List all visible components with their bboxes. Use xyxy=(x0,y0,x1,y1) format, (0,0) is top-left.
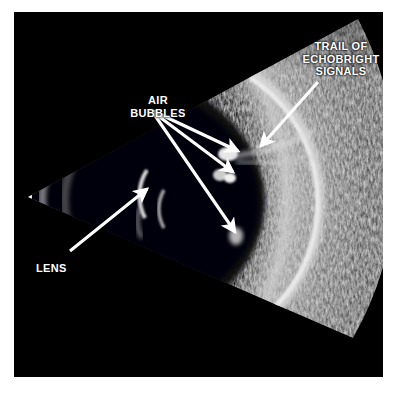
ultrasound-sector-image xyxy=(14,12,383,377)
scan-field: TRAIL OF ECHOBRIGHT SIGNALS AIR BUBBLES … xyxy=(14,12,383,377)
ultrasound-figure: TRAIL OF ECHOBRIGHT SIGNALS AIR BUBBLES … xyxy=(0,0,401,393)
